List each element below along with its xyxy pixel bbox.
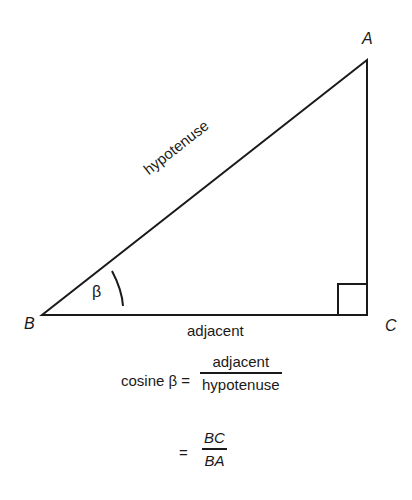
formula-equals: = <box>179 445 188 460</box>
formula-lhs: cosine β = <box>121 373 190 388</box>
right-angle-marker <box>338 284 367 315</box>
fraction-bc-over-ba: BC BA <box>202 430 227 468</box>
vertex-label-c: C <box>385 318 397 334</box>
fraction-adjacent-over-hypotenuse: adjacent hypotenuse <box>200 354 282 392</box>
vertex-label-b: B <box>24 316 35 332</box>
triangle-diagram <box>0 0 412 500</box>
fraction1-denominator: hypotenuse <box>200 374 282 392</box>
fraction2-numerator: BC <box>202 430 227 448</box>
angle-arc <box>112 271 123 306</box>
triangle-shape <box>42 60 367 315</box>
fraction2-denominator: BA <box>202 450 226 468</box>
adjacent-label: adjacent <box>187 323 244 338</box>
vertex-label-a: A <box>362 31 373 47</box>
fraction1-numerator: adjacent <box>210 354 271 372</box>
angle-label-beta: β <box>92 284 101 300</box>
